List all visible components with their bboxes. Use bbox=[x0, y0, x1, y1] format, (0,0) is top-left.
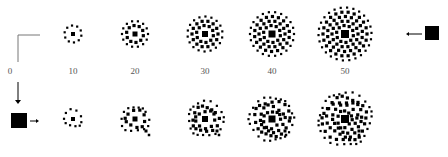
output-square bbox=[425, 26, 439, 40]
pattern-diagram bbox=[0, 0, 448, 157]
connector-line bbox=[18, 35, 40, 62]
input-square bbox=[11, 113, 27, 128]
